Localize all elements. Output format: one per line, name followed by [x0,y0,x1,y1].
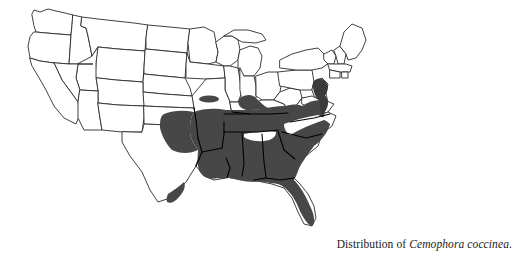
range-spot-missouri [199,95,219,102]
state-colorado [96,78,144,106]
us-range-map [18,6,388,232]
state-minnesota [188,27,218,64]
state-wyoming [95,47,145,82]
distribution-map-figure: Distribution of Cemophora coccinea. [0,0,519,260]
state-new-mexico [98,103,144,132]
range-florida [266,180,314,226]
figure-caption: Distribution of Cemophora coccinea. [337,238,512,252]
caption-taxon: Cemophora coccinea [409,238,509,250]
state-rhode-island [342,72,348,78]
state-south-dakota [144,49,187,78]
figure-page: Distribution of Cemophora coccinea. [0,0,519,260]
state-arizona [78,90,102,130]
caption-terminator: . [509,238,512,250]
state-new-york [280,48,330,70]
state-vermont [324,50,336,64]
state-wisconsin [216,36,240,66]
state-washington [32,9,73,35]
state-pennsylvania [278,70,314,90]
caption-prefix: Distribution of [337,238,410,250]
state-north-dakota [146,25,190,53]
